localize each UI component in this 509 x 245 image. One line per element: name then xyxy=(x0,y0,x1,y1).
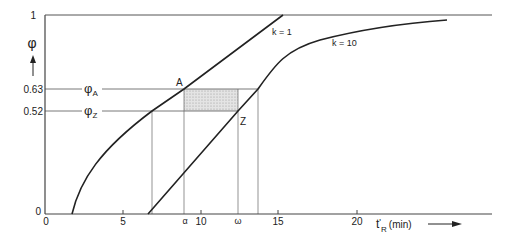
y-axis-arrowhead xyxy=(30,55,36,63)
y-axis-label: φ xyxy=(27,35,36,51)
curve-k10 xyxy=(148,20,447,214)
y-tick-1: 1 xyxy=(30,10,36,21)
k10-label: k = 10 xyxy=(332,38,357,48)
y-tick-063: 0.63 xyxy=(24,84,44,95)
x-tick-label-15: 15 xyxy=(272,216,284,227)
y-tick-0: 0 xyxy=(35,206,41,217)
k1-label: k = 1 xyxy=(272,27,292,37)
point-z-label: Z xyxy=(240,116,246,127)
y-tick-052: 0.52 xyxy=(24,106,44,117)
chart: 1 0.63 0.52 0 φ φA φZ A Z k = 1 k = 10 0… xyxy=(0,0,509,245)
point-a-label: A xyxy=(176,77,183,88)
x-tick-label-5: 5 xyxy=(120,216,126,227)
curve-k1 xyxy=(72,15,283,214)
omega-label: ω xyxy=(234,216,241,226)
alpha-label: α xyxy=(182,216,187,226)
x-tick-label-20: 20 xyxy=(351,216,363,227)
x-tick-label-10: 10 xyxy=(195,216,207,227)
x-axis-arrowhead xyxy=(452,221,462,227)
x-tick-label-0: 0 xyxy=(43,216,49,227)
x-axis-label: t'R(min) xyxy=(376,217,412,234)
shaded-region xyxy=(184,89,238,111)
